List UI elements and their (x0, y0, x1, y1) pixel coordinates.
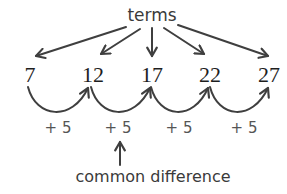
difference-3: + 5 (166, 119, 193, 137)
sequence-terms: 7 12 17 22 27 (25, 62, 281, 87)
arc-1-to-2 (28, 87, 88, 112)
difference-labels: + 5 + 5 + 5 + 5 (45, 119, 258, 137)
terms-label: terms (127, 5, 176, 25)
terms-pointer-arrows (36, 25, 268, 56)
arc-4-to-5 (210, 87, 268, 112)
term-1: 7 (25, 62, 36, 87)
term-3: 17 (141, 62, 163, 87)
arithmetic-sequence-diagram: terms 7 12 17 22 27 + 5 + 5 + 5 + 5 comm… (0, 0, 287, 194)
term-4: 22 (199, 62, 221, 87)
term-2: 12 (82, 62, 104, 87)
difference-arcs (28, 87, 268, 112)
arrow-to-term-5 (178, 25, 268, 56)
difference-2: + 5 (105, 119, 132, 137)
arc-2-to-3 (91, 87, 150, 112)
common-difference-label: common difference (75, 167, 230, 186)
arc-3-to-4 (151, 87, 208, 112)
difference-4: + 5 (231, 119, 258, 137)
term-5: 27 (258, 62, 280, 87)
arrow-to-term-1 (36, 27, 126, 56)
difference-1: + 5 (45, 119, 72, 137)
